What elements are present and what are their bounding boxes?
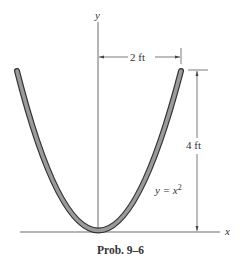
x-axis-label: x xyxy=(224,225,230,237)
arrowhead-right xyxy=(175,56,180,59)
arrowhead-bottom xyxy=(196,226,199,231)
y-axis-label: y xyxy=(94,9,100,21)
equation-exponent: 2 xyxy=(178,183,182,192)
equation-main: y = x xyxy=(154,184,178,196)
parabola-rod xyxy=(17,71,181,231)
arrowhead-left xyxy=(99,56,104,59)
diagram-canvas: y x 2 ft 4 ft y = x2 Prob. 9–6 xyxy=(0,0,244,263)
dimension-2ft-label: 2 ft xyxy=(130,51,145,63)
dimension-4ft-label: 4 ft xyxy=(186,139,201,151)
figure-caption: Prob. 9–6 xyxy=(97,244,144,256)
arrowhead-top xyxy=(196,71,199,76)
equation-label: y = x2 xyxy=(154,183,182,196)
